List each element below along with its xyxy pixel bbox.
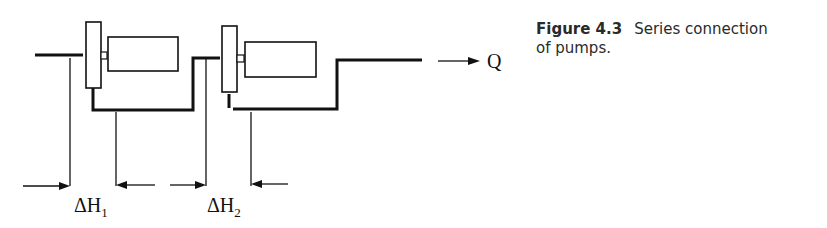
pump-2-casing (222, 26, 237, 92)
caption-text-line2: of pumps. (536, 39, 611, 57)
arrow-right-icon (59, 182, 70, 190)
head-label-2: ΔH2 (207, 194, 241, 220)
caption-text-line1: Series connection (634, 20, 768, 38)
figure-caption: Figure 4.3Series connection of pumps. (536, 20, 826, 58)
series-pumps-diagram: Q ΔH1 ΔH2 (0, 0, 520, 228)
motor-2 (245, 42, 316, 77)
motor-1 (108, 37, 178, 71)
flow-label: Q (487, 50, 502, 72)
head-label-1: ΔH1 (74, 194, 108, 220)
coupling-2 (237, 55, 244, 62)
figure-label: Figure 4.3 (536, 20, 622, 38)
pump-1-casing (86, 22, 101, 88)
coupling-1 (101, 52, 107, 59)
arrow-right-icon (195, 181, 206, 189)
arrow-left-icon (116, 181, 127, 189)
arrow-left-icon (251, 180, 262, 188)
flow-arrow-head-icon (468, 57, 480, 65)
